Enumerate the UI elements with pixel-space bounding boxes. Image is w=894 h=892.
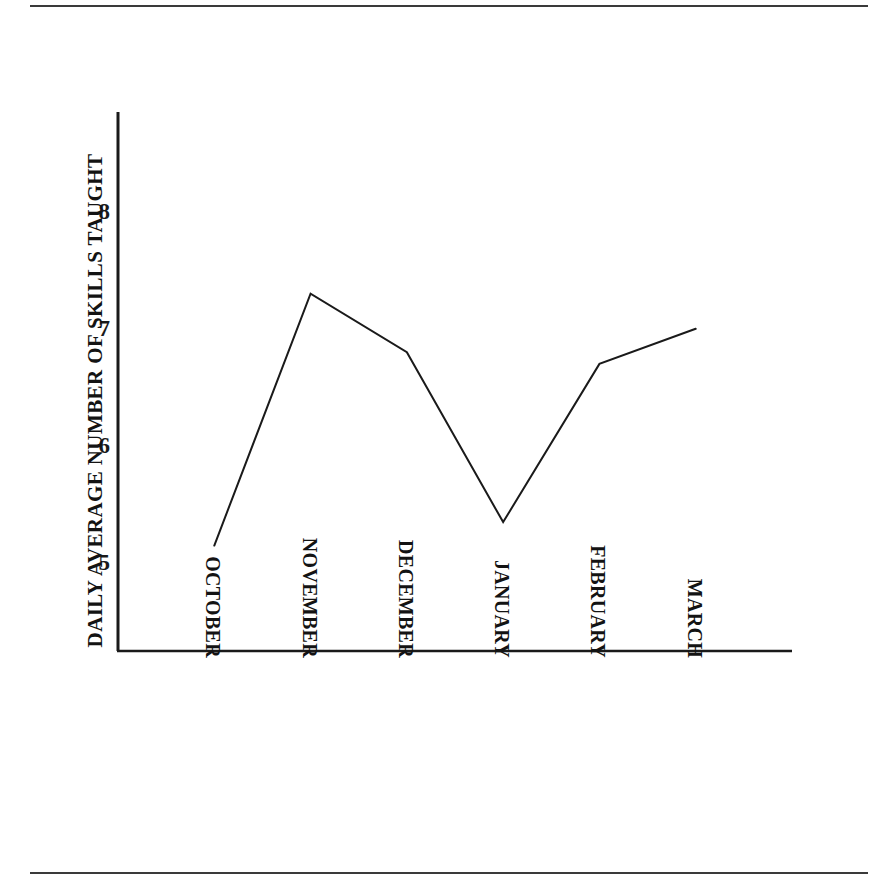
- x-tick-text-march: MARCH: [683, 478, 706, 658]
- chart-plot-svg: [0, 0, 894, 892]
- x-tick-label-november: NOVEMBER: [321, 478, 344, 658]
- line-chart: 8 7 6 5 DAILY AVERAGE NUMBER OF SKILLS T…: [0, 0, 894, 892]
- x-tick-label-october: OCTOBER: [224, 478, 247, 658]
- x-tick-label-january: JANUARY: [513, 478, 536, 658]
- y-axis-title: DAILY AVERAGE NUMBER OF SKILLS TAUGHT: [83, 141, 108, 661]
- x-tick-text-december: DECEMBER: [394, 478, 417, 658]
- figure-page: 8 7 6 5 DAILY AVERAGE NUMBER OF SKILLS T…: [0, 0, 894, 892]
- x-tick-label-december: DECEMBER: [417, 478, 440, 658]
- x-tick-label-march: MARCH: [706, 478, 729, 658]
- x-tick-text-november: NOVEMBER: [298, 478, 321, 658]
- x-tick-label-february: FEBRUARY: [609, 478, 632, 658]
- x-tick-text-january: JANUARY: [490, 478, 513, 658]
- x-tick-text-october: OCTOBER: [201, 478, 224, 658]
- x-tick-text-february: FEBRUARY: [586, 478, 609, 658]
